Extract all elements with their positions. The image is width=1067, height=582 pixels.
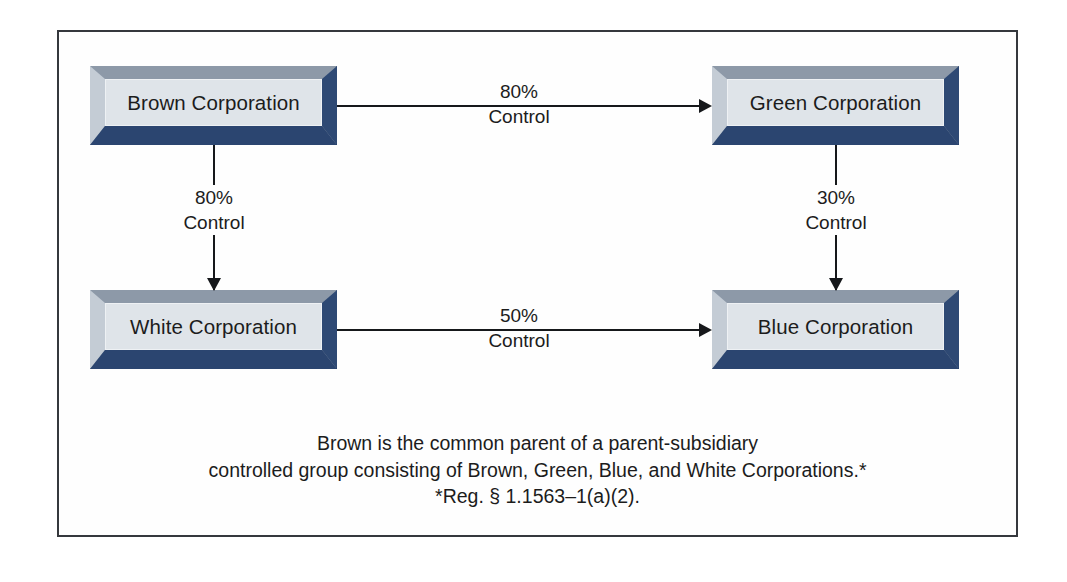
edge-relation-white-blue: Control: [488, 328, 549, 353]
arrowhead-brown-to-white: [207, 278, 221, 291]
box-face: White Corporation: [105, 303, 322, 350]
box-face: Brown Corporation: [105, 79, 322, 126]
edge-label-brown-to-green: 80% Control: [488, 79, 549, 129]
node-label-white: White Corporation: [130, 315, 297, 339]
edge-percent-white-blue: 50%: [488, 303, 549, 328]
node-brown-corporation[interactable]: Brown Corporation: [90, 66, 337, 145]
edge-percent-brown-white: 80%: [183, 185, 244, 210]
node-blue-corporation[interactable]: Blue Corporation: [712, 290, 959, 369]
edge-relation-brown-white: Control: [183, 210, 244, 235]
caption-line-2: controlled group consisting of Brown, Gr…: [59, 457, 1016, 484]
diagram-caption: Brown is the common parent of a parent-s…: [59, 430, 1016, 510]
caption-line-1: Brown is the common parent of a parent-s…: [59, 430, 1016, 457]
node-white-corporation[interactable]: White Corporation: [90, 290, 337, 369]
arrowhead-green-to-blue: [829, 278, 843, 291]
arrowhead-brown-to-green: [699, 99, 712, 113]
box-face: Green Corporation: [727, 79, 944, 126]
node-label-green: Green Corporation: [750, 91, 922, 115]
edge-percent-brown-green: 80%: [488, 79, 549, 104]
diagram-frame: Brown Corporation Green Corporation Whit…: [57, 30, 1018, 537]
node-label-blue: Blue Corporation: [758, 315, 913, 339]
edge-percent-green-blue: 30%: [805, 185, 866, 210]
edge-label-white-to-blue: 50% Control: [488, 303, 549, 353]
edge-label-brown-to-white: 80% Control: [180, 185, 247, 235]
node-green-corporation[interactable]: Green Corporation: [712, 66, 959, 145]
arrowhead-white-to-blue: [699, 323, 712, 337]
edge-label-green-to-blue: 30% Control: [802, 185, 869, 235]
caption-line-3: *Reg. § 1.1563–1(a)(2).: [59, 483, 1016, 510]
box-face: Blue Corporation: [727, 303, 944, 350]
node-label-brown: Brown Corporation: [127, 91, 300, 115]
edge-relation-brown-green: Control: [488, 104, 549, 129]
edge-relation-green-blue: Control: [805, 210, 866, 235]
